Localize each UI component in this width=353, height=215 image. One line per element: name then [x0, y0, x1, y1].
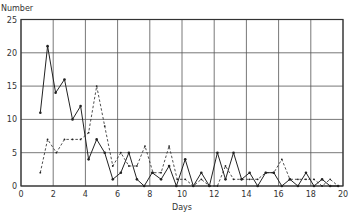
- dashed-data-point: [96, 85, 98, 87]
- dashed-data-point: [39, 172, 41, 174]
- dashed-data-point: [72, 138, 74, 140]
- dashed-data-point: [208, 185, 210, 187]
- y-tick-label: 5: [12, 149, 17, 158]
- dashed-data-point: [337, 185, 339, 187]
- solid-data-point: [232, 151, 235, 154]
- solid-data-point: [224, 178, 227, 181]
- solid-data-point: [46, 45, 49, 48]
- solid-data-point: [54, 91, 57, 94]
- x-tick-label: 4: [83, 190, 88, 199]
- x-axis-ticks: 02468101214161820: [18, 190, 348, 199]
- dashed-data-point: [233, 178, 235, 180]
- dashed-data-point: [47, 138, 49, 140]
- dashed-data-point: [80, 138, 82, 140]
- solid-data-point: [160, 178, 163, 181]
- solid-series-line: [40, 46, 338, 186]
- dashed-data-point: [136, 165, 138, 167]
- solid-data-point: [39, 111, 42, 114]
- x-tick-label: 10: [177, 190, 187, 199]
- solid-data-point: [256, 185, 259, 188]
- x-tick-label: 6: [115, 190, 120, 199]
- dashed-data-point: [200, 178, 202, 180]
- dashed-data-point: [56, 152, 58, 154]
- dashed-data-point: [176, 178, 178, 180]
- x-tick-label: 8: [147, 190, 152, 199]
- solid-data-point: [248, 171, 251, 174]
- solid-data-point: [95, 138, 98, 141]
- solid-data-point: [281, 185, 284, 188]
- dashed-data-point: [192, 185, 194, 187]
- dashed-data-point: [112, 165, 114, 167]
- dashed-data-point: [184, 178, 186, 180]
- solid-data-point: [136, 178, 139, 181]
- solid-data-point: [143, 185, 146, 188]
- dashed-data-point: [313, 178, 315, 180]
- dashed-data-point: [64, 138, 66, 140]
- dashed-data-point: [144, 145, 146, 147]
- dashed-data-point: [241, 178, 243, 180]
- dashed-data-point: [128, 165, 130, 167]
- dashed-data-point: [273, 172, 275, 174]
- solid-data-point: [168, 165, 171, 168]
- dashed-data-point: [160, 172, 162, 174]
- dashed-data-point: [321, 185, 323, 187]
- dashed-data-point: [217, 185, 219, 187]
- dashed-data-point: [289, 178, 291, 180]
- data-series: [39, 45, 339, 187]
- solid-data-point: [184, 158, 187, 161]
- x-axis-title: Days: [172, 203, 192, 212]
- solid-data-point: [321, 178, 324, 181]
- dashed-data-point: [305, 178, 307, 180]
- y-tick-label: 25: [7, 16, 17, 25]
- dashed-data-point: [120, 152, 122, 154]
- solid-data-point: [111, 178, 114, 181]
- dashed-data-point: [249, 178, 251, 180]
- y-tick-label: 15: [7, 82, 17, 91]
- solid-data-point: [216, 151, 219, 154]
- x-tick-label: 0: [18, 190, 23, 199]
- dashed-data-point: [152, 172, 154, 174]
- solid-data-point: [329, 185, 332, 188]
- solid-data-point: [120, 171, 123, 174]
- line-chart: 0510152025 02468101214161820 Number Days: [0, 0, 353, 215]
- solid-data-point: [71, 118, 74, 121]
- x-tick-label: 20: [338, 190, 348, 199]
- dashed-data-point: [168, 145, 170, 147]
- y-axis-ticks: 0510152025: [7, 16, 17, 192]
- solid-data-point: [128, 151, 131, 154]
- dashed-data-point: [257, 178, 259, 180]
- solid-data-point: [103, 151, 106, 154]
- dashed-data-point: [225, 165, 227, 167]
- dashed-data-point: [281, 158, 283, 160]
- dashed-data-point: [297, 178, 299, 180]
- x-tick-label: 18: [306, 190, 316, 199]
- dashed-data-point: [104, 125, 106, 127]
- y-tick-label: 20: [7, 49, 17, 58]
- dashed-data-point: [329, 178, 331, 180]
- dashed-data-point: [265, 172, 267, 174]
- solid-data-point: [87, 158, 90, 161]
- solid-data-point: [305, 171, 308, 174]
- solid-data-point: [313, 185, 316, 188]
- x-tick-label: 14: [241, 190, 251, 199]
- solid-data-point: [175, 185, 178, 188]
- dashed-data-point: [88, 132, 90, 134]
- y-axis-title: Number: [1, 4, 34, 13]
- solid-data-point: [79, 105, 82, 108]
- y-tick-label: 10: [7, 115, 17, 124]
- x-tick-label: 16: [274, 190, 284, 199]
- x-tick-label: 12: [209, 190, 219, 199]
- solid-data-point: [200, 171, 203, 174]
- solid-data-point: [297, 185, 300, 188]
- x-tick-label: 2: [51, 190, 56, 199]
- solid-data-point: [63, 78, 66, 81]
- y-tick-label: 0: [12, 182, 17, 191]
